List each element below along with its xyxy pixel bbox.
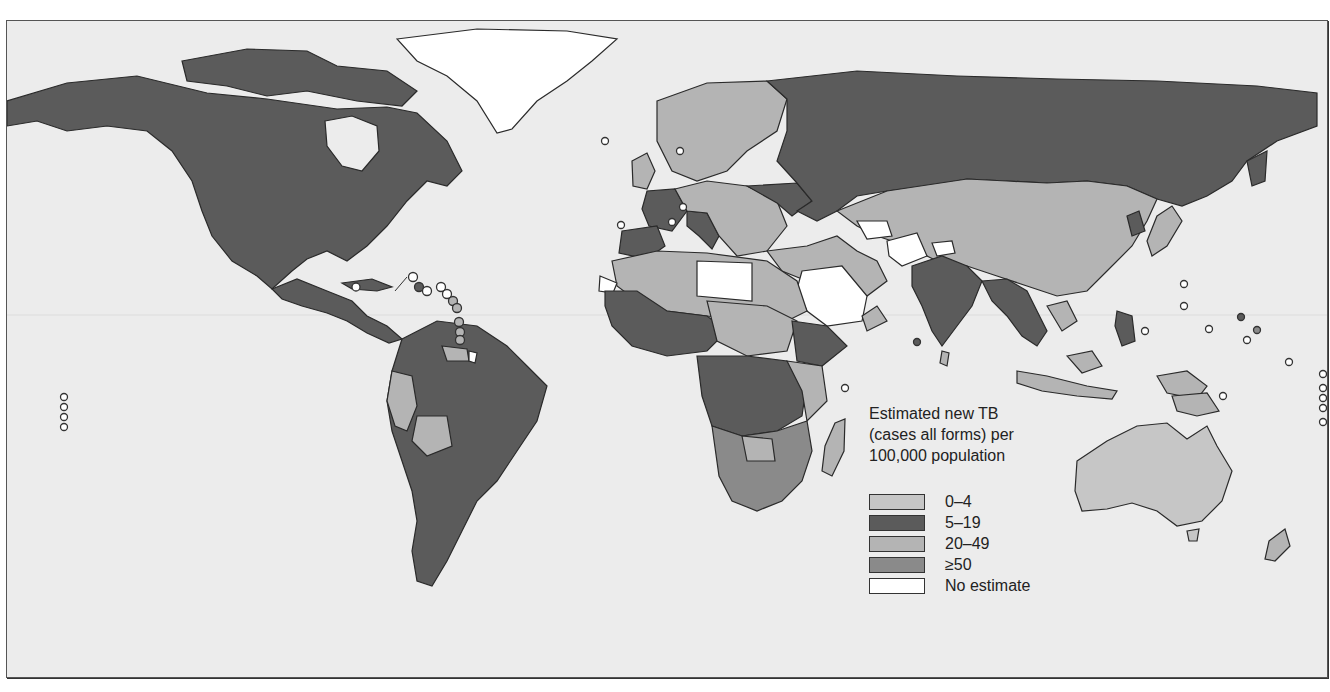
legend-swatch (869, 515, 925, 531)
legend-swatch (869, 536, 925, 552)
region-india (912, 256, 982, 346)
legend-item-0-4: 0–4 (869, 492, 1089, 512)
legend-swatch (869, 578, 925, 594)
legend-item-5-19: 5–19 (869, 513, 1089, 533)
legend-item-no-estimate: No estimate (869, 576, 1089, 596)
region-new-zealand (1265, 529, 1290, 561)
region-australia (1075, 423, 1232, 526)
region-greenland (397, 29, 617, 133)
legend-swatch (869, 494, 925, 510)
legend-title-line-2: (cases all forms) per (869, 424, 1089, 445)
legend-title-line-1: Estimated new TB (869, 403, 1089, 424)
region-north-america (7, 76, 462, 289)
legend-label: 5–19 (945, 514, 981, 532)
region-uk (632, 153, 655, 189)
region-southern-africa (712, 421, 812, 511)
world-map (7, 21, 1327, 677)
region-libya (697, 261, 752, 301)
region-northern-europe (657, 81, 787, 181)
legend-swatch (869, 557, 925, 573)
map-frame: Estimated new TB (cases all forms) per 1… (6, 20, 1328, 678)
legend-label: No estimate (945, 577, 1030, 595)
legend-title-line-3: 100,000 population (869, 445, 1089, 466)
region-philippines (1115, 311, 1135, 346)
legend-item-50-plus: ≥50 (869, 555, 1089, 575)
legend-label: ≥50 (945, 556, 972, 574)
region-madagascar (822, 419, 845, 476)
legend-label: 0–4 (945, 493, 972, 511)
region-horn-africa (792, 321, 847, 366)
region-indonesia (1017, 371, 1117, 399)
legend-item-20-49: 20–49 (869, 534, 1089, 554)
legend-title: Estimated new TB (cases all forms) per 1… (869, 403, 1089, 466)
legend: Estimated new TB (cases all forms) per 1… (869, 403, 1089, 597)
region-japan (1147, 206, 1182, 256)
legend-label: 20–49 (945, 535, 990, 553)
